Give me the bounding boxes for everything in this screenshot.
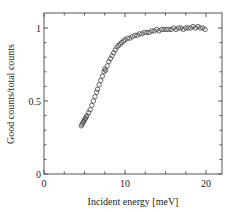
data-point [95, 87, 99, 91]
data-points [79, 24, 207, 128]
data-point [97, 83, 101, 87]
x-tick-label: 20 [201, 178, 211, 189]
data-point [91, 99, 95, 103]
data-point [105, 64, 109, 68]
y-tick-labels: 00.51 [29, 23, 42, 180]
data-point [93, 94, 97, 98]
x-tick-labels: 01020 [42, 178, 212, 189]
y-tick-label: 1 [36, 23, 41, 34]
x-tick-label: 10 [120, 178, 130, 189]
chart: 01020 00.51 Incident energy [meV] Good c… [0, 0, 235, 212]
y-tick-label: 0.5 [29, 96, 42, 107]
y-axis-label: Good counts/total counts [5, 44, 16, 144]
data-point [100, 74, 104, 78]
data-point [99, 78, 103, 82]
x-tick-label: 0 [42, 178, 47, 189]
data-point [90, 103, 94, 107]
y-tick-label: 0 [36, 169, 41, 180]
data-point [94, 90, 98, 94]
x-axis-label: Incident energy [meV] [88, 196, 179, 207]
